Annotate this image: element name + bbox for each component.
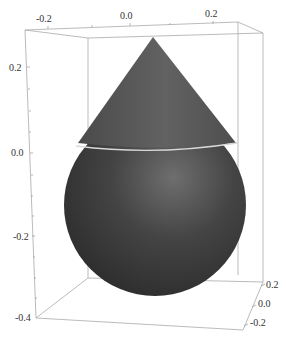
y-tick-label: 0.2 (266, 279, 279, 290)
y-tick-label: 0.0 (258, 298, 271, 309)
z-tick-label: -0.2 (13, 231, 29, 242)
y-tick-label: -0.2 (250, 317, 266, 328)
x-tick-label: 0.0 (120, 10, 133, 21)
z-tick-label: 0.2 (9, 62, 22, 73)
z-tick-label: 0.0 (11, 147, 24, 158)
x-tick-label: -0.2 (36, 13, 52, 24)
z-tick-label: -0.4 (15, 312, 31, 323)
x-tick-label: 0.2 (205, 8, 218, 19)
z-axis: 0.2 0.0 -0.2 -0.4 (9, 62, 37, 323)
cone-surface (78, 37, 236, 148)
3d-plot[interactable]: -0.2 0.0 0.2 0.2 0.0 -0.2 -0.4 0.2 0.0 -… (0, 0, 286, 341)
